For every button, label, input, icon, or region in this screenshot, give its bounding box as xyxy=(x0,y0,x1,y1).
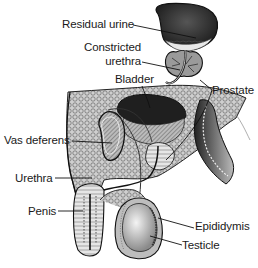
label-residual-urine: Residual urine xyxy=(62,18,134,31)
inset-bladder xyxy=(156,3,217,51)
label-bladder: Bladder xyxy=(115,73,154,86)
leader-epididymis xyxy=(158,218,194,228)
label-prostate: Prostate xyxy=(212,84,254,97)
label-urethra: Urethra xyxy=(15,172,53,185)
label-constricted-urethra-line1: Constricted xyxy=(84,41,141,54)
inset-prostate xyxy=(165,50,202,83)
label-vas-deferens: Vas deferens xyxy=(4,134,70,147)
label-penis: Penis xyxy=(28,205,56,218)
scrotum xyxy=(115,198,162,259)
label-epididymis: Epididymis xyxy=(195,220,250,233)
label-testicle: Testicle xyxy=(182,239,220,252)
label-constricted-urethra-line2: urethra xyxy=(84,55,141,68)
